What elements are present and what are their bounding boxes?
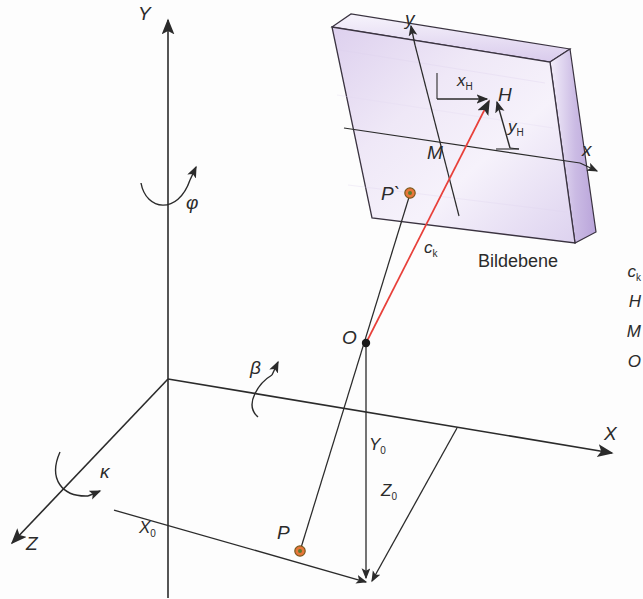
measure-c-k-sub: k [433,248,438,259]
point-O-marker [362,339,370,347]
measure-y0-main: Y [369,435,380,454]
measure-y-h-sub: H [517,127,524,138]
image-axis-label-y: y [405,9,415,28]
measure-y0-sub: 0 [380,445,386,456]
legend-item-o: O [628,352,641,372]
measure-label-x0: X0 [139,519,156,536]
measure-label-x-h: xH [457,72,473,89]
axis-X [168,379,612,453]
measure-z0-main: Z [381,481,391,500]
measure-z0-sub: 0 [391,491,397,502]
legend-item-h: H [629,292,641,312]
kappa-arc [56,452,88,496]
axis-label-Z: Z [26,534,38,553]
rotation-label-phi: φ [186,193,198,212]
rotation-label-kappa: κ [100,462,110,481]
measure-c-k-main: c [424,238,433,257]
measure-x0-sub: 0 [150,528,156,539]
legend-ck-main: c [628,262,637,281]
image-plane-slab [332,14,596,243]
phi-arc [141,180,190,205]
axis-label-X: X [604,424,617,443]
beta-arrow [272,362,278,375]
measure-y-h-main: y [508,117,517,136]
point-Pprime-core [408,191,412,195]
measure-x-h-main: x [457,71,466,90]
measure-label-z0: Z0 [381,482,397,499]
measure-label-y0: Y0 [369,436,386,453]
point-label-O: O [342,328,357,347]
point-label-P: P [277,523,290,542]
axis-label-Y: Y [138,4,151,23]
point-label-P-prime: P` [381,184,400,203]
legend-ck-sub: k [636,272,641,283]
phi-arrow [190,167,196,180]
image-plane-label: Bildebene [478,252,558,270]
point-label-H: H [498,85,512,104]
measure-label-y-h: yH [508,118,524,135]
kappa-arrow [88,491,100,496]
rotation-label-beta: β [250,358,261,377]
measure-x0-main: X [139,518,150,537]
diagram-graphics [0,0,643,599]
legend-item-m: M [627,322,641,342]
diagram-canvas: Y X Z φ β κ y x H M P` O P xH yH ck X0 Y… [0,0,643,599]
point-label-M: M [427,143,443,162]
legend-item-ck: ck [628,262,642,282]
image-axis-label-x: x [582,140,592,159]
measure-x-h-sub: H [466,81,473,92]
point-P-core [298,549,302,553]
measure-label-c-k: ck [424,239,438,256]
